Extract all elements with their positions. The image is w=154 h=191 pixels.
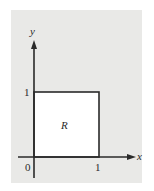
coordinate-diagram: y x 1 0 1 R — [0, 0, 154, 191]
y-tick-label: 1 — [24, 86, 30, 98]
origin-label: 0 — [25, 161, 31, 173]
y-axis-label: y — [29, 25, 35, 37]
x-tick-label: 1 — [95, 161, 101, 173]
x-axis-arrow-icon — [127, 154, 136, 160]
region-label: R — [60, 119, 68, 131]
y-axis-arrow-icon — [31, 40, 37, 49]
x-axis-label: x — [136, 150, 142, 162]
